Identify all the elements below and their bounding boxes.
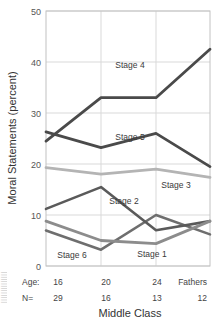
ytick-40: 40 (31, 58, 41, 68)
series-line-stage-2 (46, 187, 210, 230)
ytick-10: 10 (31, 211, 41, 221)
n-value-fathers: 12 (198, 293, 208, 303)
y-axis-tick-labels: 50 40 30 20 10 0 (31, 7, 41, 272)
series-label-stage-3: Stage 3 (161, 180, 191, 190)
ytick-20: 20 (31, 160, 41, 170)
series-label-stage-4: Stage 4 (115, 60, 145, 70)
x-axis-n-row: N= 29 16 13 12 (22, 293, 207, 303)
series-label-stage-6: Stage 6 (57, 250, 87, 260)
n-value-24: 13 (152, 293, 162, 303)
age-value-16: 16 (53, 277, 63, 287)
y-axis-title-group: Moral Statements (percent) (6, 71, 18, 204)
line-chart: ||||||||||||||| 50 40 30 20 10 0 Moral S… (0, 0, 218, 321)
n-row-label: N= (22, 293, 33, 303)
series-label-stage-1: Stage 1 (137, 249, 167, 259)
series-lines (46, 49, 210, 250)
ytick-0: 0 (36, 262, 41, 272)
n-value-16: 29 (53, 293, 63, 303)
series-inline-labels: Stage 4 Stage 5 Stage 3 Stage 2 Stage 1 … (57, 60, 191, 260)
age-row-label: Age: (22, 277, 40, 287)
age-value-20: 20 (101, 277, 111, 287)
ytick-30: 30 (31, 109, 41, 119)
age-value-24: 24 (152, 277, 162, 287)
ytick-50: 50 (31, 7, 41, 17)
x-axis-title: Middle Class (99, 307, 162, 319)
series-label-stage-5: Stage 5 (115, 132, 145, 142)
series-line-stage-3 (46, 168, 210, 178)
age-value-fathers: Fathers (178, 277, 207, 287)
series-label-stage-2: Stage 2 (109, 196, 139, 206)
chart-canvas: 50 40 30 20 10 0 Moral Statements (perce… (0, 0, 218, 321)
y-axis-title: Moral Statements (percent) (6, 71, 18, 204)
n-value-20: 16 (101, 293, 111, 303)
x-axis-title-group: Middle Class (99, 307, 162, 319)
x-axis-age-row: Age: 16 20 24 Fathers (22, 277, 207, 287)
